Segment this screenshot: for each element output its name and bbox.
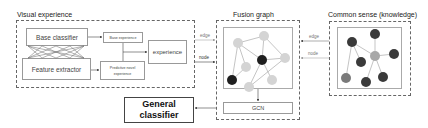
- kg-node-mid: [341, 73, 351, 83]
- left-node-label: node: [199, 55, 209, 60]
- fusion-graph-network: [227, 31, 290, 92]
- fusion-node-light: [280, 53, 290, 63]
- right-edge-label: edge: [309, 34, 319, 39]
- fusion-node-light: [244, 82, 254, 92]
- kg-node-dark: [378, 72, 388, 82]
- diagram-connections: [0, 0, 428, 128]
- fusion-node-light: [259, 31, 269, 41]
- fusion-node-light: [241, 62, 251, 72]
- kg-node-center: [370, 51, 380, 61]
- kg-node-dark: [356, 57, 366, 67]
- kg-node-dark: [361, 77, 371, 87]
- kg-node-dark: [347, 37, 357, 47]
- kg-node-dark: [389, 49, 399, 59]
- fusion-node-light: [267, 75, 277, 85]
- fusion-node-dark: [227, 75, 237, 85]
- cross-connections: [28, 46, 84, 58]
- common-sense-network: [341, 29, 399, 87]
- kg-node-dark: [370, 29, 380, 39]
- right-node-label: node: [308, 51, 318, 56]
- left-edge-label: edge: [200, 33, 210, 38]
- fusion-node-dark: [257, 55, 267, 65]
- fusion-node-light: [233, 38, 243, 48]
